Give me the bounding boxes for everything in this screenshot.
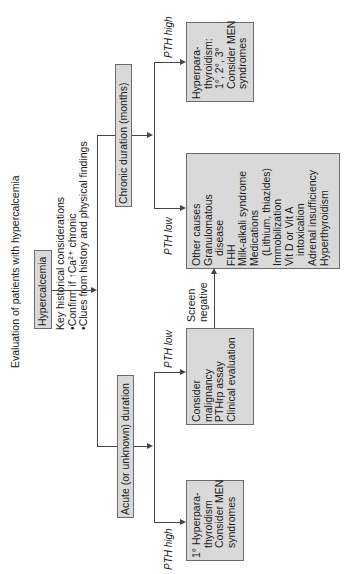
chronic-pth-high-result-box: Hyperpara- thyroidism: 1°, 2°, 3° Consid… xyxy=(186,22,254,102)
considerations-heading: Key historical considerations xyxy=(55,141,67,330)
chronic-pth-high-label: PTH high xyxy=(163,16,174,58)
connector-line xyxy=(154,372,180,373)
hypercalcemia-label: Hypercalcemia xyxy=(36,257,48,326)
arrow-right-icon xyxy=(147,132,153,138)
connector-line xyxy=(97,446,117,447)
malignancy-box: Consider malignancy PTHrp assay Clinical… xyxy=(186,328,254,425)
arrow-up-icon xyxy=(211,268,217,274)
connector-line xyxy=(97,135,115,136)
chronic-split-line xyxy=(154,62,155,209)
acute-pth-high-result-box: 1° Hyperpara- thyroidism Consider MEN sy… xyxy=(186,480,244,561)
key-considerations: Key historical considerations Confirm if… xyxy=(55,141,90,330)
acute-duration-label: Acute (or unknown) duration xyxy=(119,383,131,515)
connector-line xyxy=(154,522,180,523)
chronic-pth-low-label: PTH low xyxy=(163,217,174,255)
spine-line xyxy=(97,135,98,447)
consideration-bullet: Clues from history and physical findings xyxy=(78,141,90,330)
connector-line xyxy=(134,446,148,447)
cropped-top-text xyxy=(0,0,353,4)
acute-pth-low-label: PTH low xyxy=(163,330,174,368)
connector-line xyxy=(132,135,148,136)
screen-negative-label: Screen negative xyxy=(186,282,209,322)
chronic-duration-box: Chronic duration (months) xyxy=(115,64,132,207)
screen-negative-line xyxy=(214,274,215,328)
connector-line xyxy=(154,208,180,209)
title-text: Evaluation of patients with hypercalcemi… xyxy=(9,175,21,368)
other-causes-box: Other causes Granulomatous disease FHH M… xyxy=(186,153,340,269)
diagram-title: Evaluation of patients with hypercalcemi… xyxy=(10,175,22,368)
hypercalcemia-box: Hypercalcemia xyxy=(34,250,52,329)
acute-pth-high-label: PTH high xyxy=(163,528,174,570)
acute-duration-box: Acute (or unknown) duration xyxy=(117,375,134,518)
connector-line xyxy=(52,290,92,291)
connector-line xyxy=(154,62,180,63)
arrow-right-icon xyxy=(147,443,153,449)
acute-split-line xyxy=(154,372,155,523)
chronic-duration-label: Chronic duration (months) xyxy=(117,83,129,204)
